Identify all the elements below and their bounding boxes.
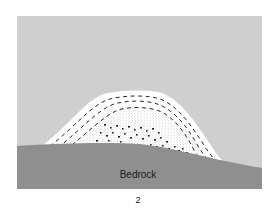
bedrock-label: Bedrock	[120, 169, 158, 180]
diagram-canvas: Bedrock 2	[0, 0, 275, 208]
figure-number: 2	[135, 195, 140, 205]
